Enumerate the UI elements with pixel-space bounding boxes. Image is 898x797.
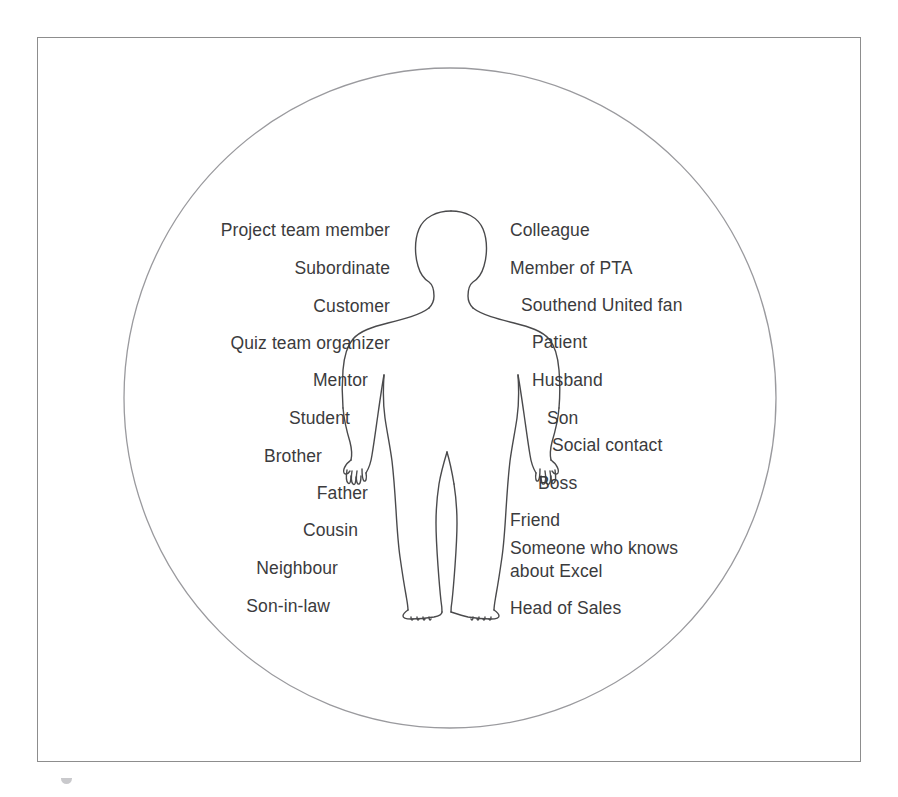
role-label-left: Project team member — [221, 219, 390, 241]
head-outline — [416, 211, 452, 308]
diagram-canvas — [0, 0, 898, 797]
torso-left-outline — [342, 308, 429, 408]
caption-text — [54, 778, 79, 786]
arm-left-inner — [366, 375, 384, 473]
caption-bullet-icon — [61, 778, 72, 784]
leg-left-outline — [383, 375, 408, 610]
role-label-left: Brother — [264, 445, 322, 467]
caption-sliver — [0, 778, 898, 797]
role-label-right: Boss — [538, 472, 577, 494]
role-label-right: Patient — [532, 331, 587, 353]
role-label-right: about Excel — [510, 560, 603, 582]
role-label-right: Colleague — [510, 219, 590, 241]
role-label-left: Cousin — [303, 519, 358, 541]
role-label-right: Someone who knows — [510, 537, 678, 559]
leg-left-inner — [436, 452, 447, 612]
role-label-right: Member of PTA — [510, 257, 633, 279]
role-label-left: Son-in-law — [246, 595, 330, 617]
role-label-left: Student — [289, 407, 350, 429]
role-label-left: Quiz team organizer — [231, 332, 390, 354]
role-label-right: Head of Sales — [510, 597, 621, 619]
role-label-left: Subordinate — [295, 257, 390, 279]
role-label-left: Customer — [313, 295, 390, 317]
role-label-right: Southend United fan — [521, 294, 682, 316]
leg-right-inner — [451, 484, 457, 612]
role-label-right: Friend — [510, 509, 560, 531]
role-label-right: Social contact — [552, 434, 662, 456]
torso-right-outline — [473, 308, 560, 408]
role-label-left: Mentor — [313, 369, 368, 391]
role-label-right: Husband — [532, 369, 603, 391]
identity-circle — [124, 68, 776, 728]
role-label-left: Neighbour — [256, 557, 338, 579]
role-label-right: Son — [547, 407, 578, 429]
crotch-outline — [447, 452, 454, 484]
role-label-left: Father — [317, 482, 368, 504]
foot-right-outline — [451, 610, 499, 619]
